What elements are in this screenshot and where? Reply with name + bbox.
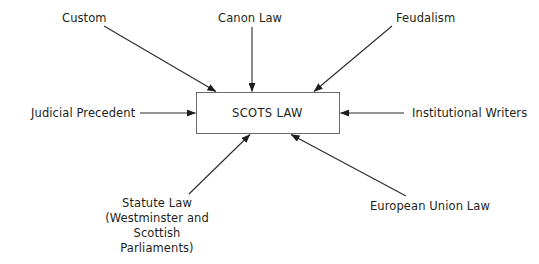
- diagram-canvas: SCOTS LAW Custom Canon Law Feudalism Jud…: [0, 0, 539, 264]
- arrow-custom: [104, 26, 216, 92]
- label-institutional-writers: Institutional Writers: [412, 106, 527, 121]
- label-feudalism: Feudalism: [396, 11, 455, 26]
- label-statute-law-line1: Statute Law: [96, 196, 218, 211]
- arrow-feudalism: [314, 26, 392, 92]
- label-judicial-precedent: Judicial Precedent: [31, 106, 135, 121]
- label-statute-law-line2: (Westminster and: [96, 211, 218, 226]
- scots-law-label: SCOTS LAW: [232, 106, 303, 120]
- label-statute-law-line3: Scottish Parliaments): [96, 226, 218, 256]
- label-european-union-law: European Union Law: [370, 199, 490, 214]
- arrow-statute-law: [189, 135, 250, 195]
- label-custom: Custom: [62, 11, 107, 26]
- diagram-arrows-layer: [0, 0, 539, 264]
- label-canon-law: Canon Law: [218, 11, 282, 26]
- label-statute-law: Statute Law (Westminster and Scottish Pa…: [96, 196, 218, 256]
- arrow-european-union-law: [291, 135, 406, 197]
